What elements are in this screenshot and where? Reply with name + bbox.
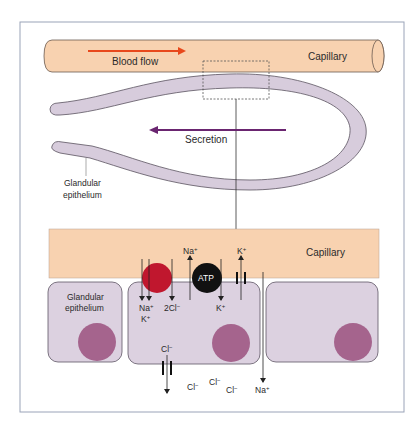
nucleus-left <box>78 323 116 361</box>
nucleus-right <box>334 323 372 361</box>
secretion-label: Secretion <box>185 134 227 145</box>
gland-label-line1: Glandular <box>64 178 101 188</box>
capillary-label-bottom: Capillary <box>306 247 345 258</box>
gland-label-bottom-line2: epithelium <box>65 303 104 313</box>
atp-label: ATP <box>198 273 214 283</box>
gland-label-bottom-line1: Glandular <box>67 292 104 302</box>
gland-label-line2: epithelium <box>63 190 102 200</box>
cotransporter-icon <box>142 263 172 293</box>
capillary-label-top: Capillary <box>308 51 347 62</box>
nucleus-middle <box>212 324 250 362</box>
blood-flow-label: Blood flow <box>112 56 159 67</box>
salivary-secretion-diagram: Blood flow Capillary Secretion Glandular… <box>0 0 408 426</box>
